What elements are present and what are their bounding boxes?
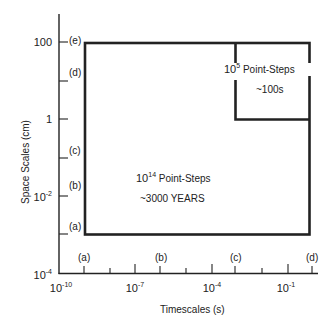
y-letter-d: (d) bbox=[69, 68, 81, 78]
large-region-duration: ~3000 YEARS bbox=[140, 194, 205, 204]
large-region-count-base: 10 bbox=[136, 172, 148, 184]
y-letter-e: (e) bbox=[69, 36, 81, 46]
x-tick-1e-7-base: 10 bbox=[126, 282, 138, 294]
large-region-count-exp: 14 bbox=[148, 171, 156, 178]
small-region-count-exp: 5 bbox=[236, 62, 240, 69]
x-letter-a: (a) bbox=[78, 253, 90, 263]
x-tick-label-1e-10: 10-10 bbox=[39, 283, 83, 294]
large-region-count-suffix: Point-Steps bbox=[159, 173, 211, 184]
x-tick-1e-1-exp: -1 bbox=[289, 281, 295, 288]
small-region-count-suffix: Point-Steps bbox=[243, 64, 295, 75]
x-tick-1e-10-base: 10 bbox=[50, 282, 62, 294]
y-tick-label-1e-2: 10-2 bbox=[12, 192, 52, 203]
x-tick-1e-4-base: 10 bbox=[203, 282, 215, 294]
x-ticks bbox=[84, 264, 312, 273]
y-letter-c: (c) bbox=[69, 146, 81, 156]
y-tick-1e-4-exp: -4 bbox=[46, 268, 52, 275]
x-letter-c: (c) bbox=[230, 253, 242, 263]
small-region-count-base: 10 bbox=[224, 63, 236, 75]
y-letter-b: (b) bbox=[69, 181, 81, 191]
x-letter-d: (d) bbox=[306, 253, 318, 263]
x-tick-1e-4-exp: -4 bbox=[215, 281, 221, 288]
x-tick-label-1e-7: 10-7 bbox=[113, 283, 157, 294]
small-region-count: 105 Point-Steps bbox=[224, 63, 314, 76]
x-tick-label-1e-4: 10-4 bbox=[190, 283, 234, 294]
x-letter-b: (b) bbox=[155, 253, 167, 263]
y-tick-label-1: 1 bbox=[12, 114, 52, 125]
x-tick-1e-7-exp: -7 bbox=[138, 281, 144, 288]
x-tick-label-1e-1: 10-1 bbox=[264, 283, 308, 294]
y-tick-1e-2-base: 10 bbox=[34, 191, 46, 203]
large-region-count: 1014 Point-Steps bbox=[136, 173, 266, 184]
small-region-duration: ~100s bbox=[256, 85, 284, 95]
y-letter-a: (a) bbox=[69, 222, 81, 232]
small-region-box bbox=[236, 43, 310, 120]
x-tick-1e-1-base: 10 bbox=[277, 282, 289, 294]
x-tick-1e-10-exp: -10 bbox=[62, 281, 72, 288]
y-tick-label-100: 100 bbox=[12, 37, 52, 48]
y-tick-label-1e-4: 10-4 bbox=[12, 270, 52, 281]
y-tick-1e-4-base: 10 bbox=[34, 269, 46, 281]
y-ticks bbox=[59, 42, 68, 234]
y-tick-1e-2-exp: -2 bbox=[46, 190, 52, 197]
x-axis-title: Timescales (s) bbox=[160, 305, 225, 315]
